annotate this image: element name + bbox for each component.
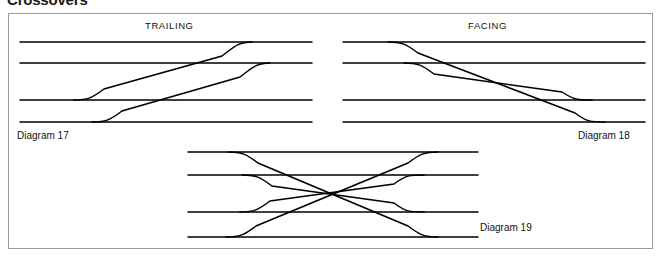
crossover-route-2-to-3: [404, 63, 592, 100]
crossover-route-4-to-2: [92, 63, 270, 122]
diagram-19-tracks: [188, 152, 478, 237]
diagram-caption-17: Diagram 17: [17, 130, 69, 141]
crossover-route-3-to-1: [74, 42, 252, 100]
crossover-route-1-to-4: [388, 42, 605, 122]
diagram-caption-19: Diagram 19: [480, 222, 532, 233]
page-canvas: Crossovers TRA: [0, 0, 666, 260]
track-diagram-svg: [0, 0, 666, 260]
section-label-trailing: TRAILING: [145, 20, 194, 31]
crossover-route-4-to-1: [226, 152, 438, 237]
section-label-facing: FACING: [468, 20, 507, 31]
diagram-18-tracks: [343, 42, 645, 122]
diagram-caption-18: Diagram 18: [578, 130, 630, 141]
diagram-17-tracks: [20, 42, 312, 122]
